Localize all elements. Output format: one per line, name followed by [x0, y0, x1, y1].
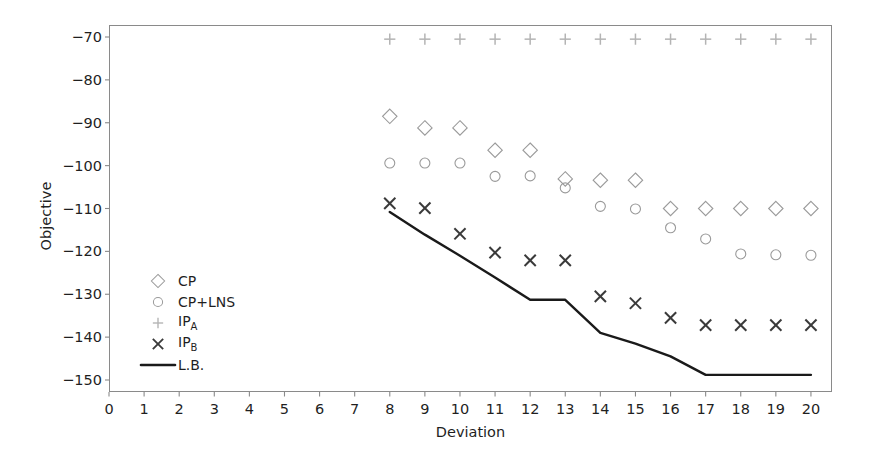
- x-axis-tick-label: 10: [451, 401, 469, 417]
- y-axis-tick-label: −80: [40, 72, 102, 88]
- legend-item[interactable]: L.B.: [138, 354, 246, 375]
- data-point-x: [153, 338, 163, 348]
- data-point-circle: [153, 297, 162, 306]
- chart-legend: CPCP+LNSIPAIPBL.B.: [132, 262, 252, 383]
- legend-item[interactable]: CP: [138, 270, 246, 291]
- legend-item[interactable]: IPB: [138, 333, 246, 354]
- x-axis-tick-label: 5: [280, 401, 289, 417]
- y-axis-label: Objective: [38, 156, 54, 276]
- x-axis-label: Deviation: [109, 424, 832, 440]
- data-point-diamond: [151, 274, 164, 287]
- x-axis-tick-label: 4: [245, 401, 254, 417]
- x-axis-tick-label: 19: [767, 401, 785, 417]
- plus-icon: [138, 313, 178, 333]
- x-icon: [138, 334, 178, 354]
- x-axis-tick-label: 9: [420, 401, 429, 417]
- x-axis-tick-label: 8: [385, 401, 394, 417]
- legend-item-label: CP: [178, 273, 196, 289]
- y-axis-tick-label: −70: [40, 29, 102, 45]
- x-axis-tick-label: 17: [696, 401, 714, 417]
- legend-item-label: L.B.: [178, 357, 204, 373]
- circle-icon: [138, 292, 178, 312]
- x-axis-tick-label: 11: [486, 401, 504, 417]
- legend-item-label: CP+LNS: [178, 294, 235, 310]
- data-point-plus: [153, 317, 163, 327]
- x-axis-tick-label: 15: [626, 401, 644, 417]
- y-axis-tick-label: −150: [40, 372, 102, 388]
- x-axis-tick-label: 20: [802, 401, 820, 417]
- legend-item-subscript: A: [191, 321, 198, 332]
- x-axis-tick-label: 7: [350, 401, 359, 417]
- legend-item-subscript: B: [191, 342, 198, 353]
- x-axis-tick-label: 2: [175, 401, 184, 417]
- line-icon: [138, 355, 178, 375]
- y-axis-tick-label: −130: [40, 286, 102, 302]
- x-axis-tick-label: 0: [104, 401, 113, 417]
- x-axis-tick-label: 13: [556, 401, 574, 417]
- legend-item[interactable]: IPA: [138, 312, 246, 333]
- legend-item-label: IPA: [178, 313, 197, 332]
- x-axis-tick-label: 6: [315, 401, 324, 417]
- y-axis-tick-label: −140: [40, 329, 102, 345]
- x-axis-tick-label: 18: [732, 401, 750, 417]
- chart-figure: −70−80−90−100−110−120−130−140−150 012345…: [0, 0, 872, 451]
- legend-item[interactable]: CP+LNS: [138, 291, 246, 312]
- x-axis-tick-label: 16: [661, 401, 679, 417]
- x-axis-tick-label: 12: [521, 401, 539, 417]
- x-axis-tick-label: 1: [139, 401, 148, 417]
- diamond-icon: [138, 271, 178, 291]
- legend-item-label: IPB: [178, 334, 197, 353]
- x-axis-tick-label: 3: [210, 401, 219, 417]
- y-axis-tick-label: −90: [40, 115, 102, 131]
- x-axis-tick-label: 14: [591, 401, 609, 417]
